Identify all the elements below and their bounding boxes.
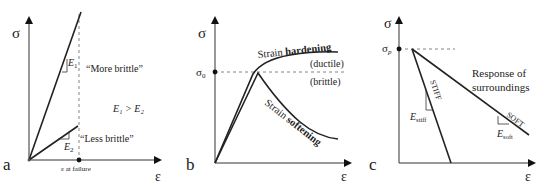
stiff-modulus-label: Estiff (409, 111, 427, 123)
panel-label-b: b (186, 155, 195, 174)
panel-label-a: a (3, 155, 11, 174)
yield-stress-label: σ0 (196, 66, 206, 80)
x-axis-label: ε (341, 169, 347, 184)
slope-e2-label: E2 (63, 141, 74, 154)
origin-point-icon (28, 159, 31, 162)
panel-label-c: c (369, 155, 377, 174)
more-brittle-label: “More brittle” (86, 63, 143, 74)
peak-stress-point-icon (397, 47, 402, 52)
strain-softening-label: Strain softening (263, 97, 324, 148)
y-axis-label: σ (198, 25, 206, 41)
x-axis-label: ε (155, 169, 161, 184)
y-axis-label: σ (384, 16, 392, 31)
failure-strain-label: ε at failure (61, 165, 91, 173)
more-brittle-line (29, 12, 81, 160)
less-brittle-label: “Less brittle” (80, 133, 134, 144)
slope-e1-label: E1 (67, 57, 78, 70)
stiff-response-line (412, 49, 451, 163)
response-label-line1: Response of (472, 67, 526, 79)
y-axis-label: σ (12, 25, 20, 41)
stiff-label: STIFF (428, 79, 443, 102)
panel-a: σ ε a ε at failure “More brittle” “Less … (3, 12, 161, 184)
panel-c: σ ε c σp STIFF SOFT Estiff Esoft Respons… (369, 16, 534, 184)
panel-b: σ ε b σ0 Strain hardening (ductile) (bri… (186, 18, 350, 184)
peak-stress-label: σp (382, 42, 392, 56)
x-axis-label: ε (525, 169, 531, 184)
stress-strain-figure: σ ε a ε at failure “More brittle” “Less … (0, 0, 546, 190)
soft-modulus-label: Esoft (496, 128, 513, 140)
failure-point-icon (77, 158, 82, 163)
soft-label: SOFT (505, 110, 526, 129)
brittle-label: (brittle) (310, 76, 341, 88)
ductile-label: (ductile) (310, 58, 344, 70)
figure-canvas: σ ε a ε at failure “More brittle” “Less … (0, 0, 546, 190)
response-label-line2: surroundings (472, 81, 529, 93)
less-brittle-line (29, 126, 78, 160)
modulus-relation-label: E₁ > E₂ (112, 103, 144, 114)
yield-stress-point-icon (213, 70, 218, 75)
